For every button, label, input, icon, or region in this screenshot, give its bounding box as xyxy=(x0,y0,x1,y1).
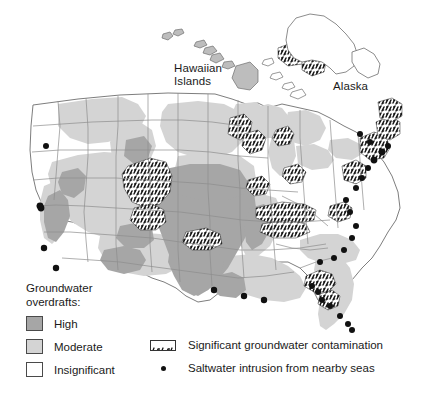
groundwater-map-figure: Hawaiian Islands Alaska Groundwater over… xyxy=(0,0,428,400)
legend-label-high: High xyxy=(54,318,78,330)
swatch-insignificant-icon xyxy=(26,362,43,377)
alaska-label: Alaska xyxy=(333,80,368,93)
legend-title: Groundwater overdrafts: xyxy=(26,282,92,309)
legend-item-moderate[interactable]: Moderate xyxy=(26,339,103,354)
legend-item-contamination[interactable]: Significant groundwater contamination xyxy=(150,339,383,351)
black-dot-icon xyxy=(150,363,176,374)
legend-label-insignificant: Insignificant xyxy=(54,364,115,376)
legend-item-insignificant[interactable]: Insignificant xyxy=(26,362,115,377)
legend-label-moderate: Moderate xyxy=(54,341,103,353)
legend-label-contamination: Significant groundwater contamination xyxy=(188,339,383,351)
stipple-box-icon xyxy=(150,340,176,351)
legend-label-saltwater: Saltwater intrusion from nearby seas xyxy=(188,362,375,374)
swatch-high-icon xyxy=(26,316,43,331)
swatch-moderate-icon xyxy=(26,339,43,354)
legend-item-saltwater[interactable]: Saltwater intrusion from nearby seas xyxy=(150,362,375,374)
hawaii-label: Hawaiian Islands xyxy=(174,62,222,88)
legend: Groundwater overdrafts: High Moderate In… xyxy=(26,282,418,390)
legend-item-high[interactable]: High xyxy=(26,316,78,331)
